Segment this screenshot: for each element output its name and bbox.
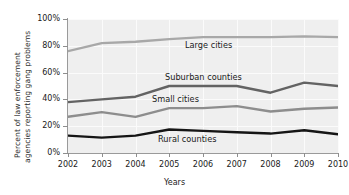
x-tick-mark [102, 153, 103, 157]
x-tick-label: 2004 [125, 160, 145, 169]
y-tick-label: 100% [37, 14, 60, 23]
x-axis-title: Years [0, 178, 349, 187]
y-tick-label: 0% [47, 148, 60, 157]
x-tick-label: 2006 [193, 160, 213, 169]
series-label-rural-counties: Rural counties [158, 134, 216, 144]
x-tick-mark [237, 153, 238, 157]
x-tick-label: 2005 [159, 160, 179, 169]
series-line-suburban-counties [68, 83, 338, 102]
series-label-small-cities: Small cities [152, 94, 199, 104]
x-tick-mark [169, 153, 170, 157]
x-tick-label: 2009 [294, 160, 314, 169]
y-axis-title-line-1: Percent of law enforcement [13, 52, 22, 158]
y-tick-label: 80% [42, 41, 60, 50]
x-tick-mark [136, 153, 137, 157]
y-axis-title-line-2: agencies reporting gang problems [23, 31, 32, 163]
x-tick-label: 2007 [227, 160, 247, 169]
x-tick-label: 2002 [58, 160, 78, 169]
series-label-large-cities: Large cities [185, 40, 232, 50]
x-tick-mark [68, 153, 69, 157]
x-tick-mark [203, 153, 204, 157]
x-tick-label: 2008 [260, 160, 280, 169]
x-tick-mark [304, 153, 305, 157]
x-tick-label: 2003 [92, 160, 112, 169]
x-tick-mark [271, 153, 272, 157]
gridline-vertical [338, 19, 339, 153]
y-tick-label: 40% [42, 94, 60, 103]
y-tick-label: 20% [42, 121, 60, 130]
series-label-suburban-counties: Suburban counties [165, 72, 242, 82]
x-tick-label: 2010 [328, 160, 348, 169]
series-line-small-cities [68, 106, 338, 117]
line-chart: Percent of law enforcement agencies repo… [0, 0, 349, 195]
y-tick-label: 60% [42, 68, 60, 77]
x-tick-mark [338, 153, 339, 157]
y-axis-title: Percent of law enforcement agencies repo… [0, 0, 40, 165]
